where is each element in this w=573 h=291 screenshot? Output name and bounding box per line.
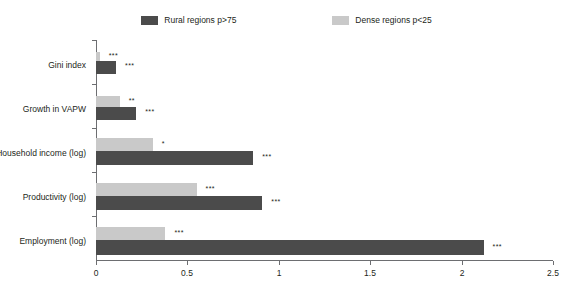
x-tick-label-05: 0.5 — [181, 268, 193, 278]
legend-label-rural: Rural regions p>75 — [164, 15, 236, 25]
legend-label-dense: Dense regions p<25 — [355, 15, 431, 25]
bar-rural-employment[interactable] — [96, 240, 484, 255]
bar-group-productivity: *** *** — [96, 172, 553, 216]
y-tick-gini — [92, 40, 96, 41]
bar-rural-household[interactable] — [96, 151, 253, 165]
bar-dense-employment[interactable] — [96, 227, 165, 240]
bar-group-gini: *** *** — [96, 40, 553, 84]
x-tick-mark-15 — [370, 261, 371, 265]
sig-rural-employment: *** — [493, 243, 502, 250]
x-tick-label-25: 2.5 — [547, 268, 559, 278]
y-axis-label-productivity: Productivity (log) — [23, 192, 86, 202]
bar-chart: Rural regions p>75 Dense regions p<25 Gi… — [0, 0, 573, 291]
x-tick-mark-0 — [96, 261, 97, 265]
bar-dense-productivity[interactable] — [96, 183, 197, 196]
plot-area: *** *** ** *** * *** *** *** — [96, 40, 553, 261]
sig-rural-household: *** — [262, 153, 271, 160]
y-axis-label-gini: Gini index — [48, 60, 86, 70]
x-axis-ticks: 0 0.5 1 1.5 2 2.5 — [96, 261, 553, 287]
legend-item-rural: Rural regions p>75 — [141, 15, 236, 25]
y-axis-label-employment: Employment (log) — [19, 236, 86, 246]
y-axis-labels: Gini index Growth in VAPW Household inco… — [0, 40, 91, 261]
x-tick-label-15: 1.5 — [364, 268, 376, 278]
y-tick-household — [92, 128, 96, 129]
x-tick-mark-1 — [279, 261, 280, 265]
y-axis-label-growth: Growth in VAPW — [23, 104, 86, 114]
sig-rural-growth: *** — [145, 108, 154, 115]
y-tick-growth — [92, 84, 96, 85]
y-axis-label-household: Household income (log) — [0, 148, 86, 158]
sig-dense-household: * — [162, 140, 165, 147]
legend-swatch-rural — [141, 16, 158, 25]
legend-swatch-dense — [332, 16, 349, 25]
sig-dense-productivity: *** — [206, 185, 215, 192]
bar-dense-gini[interactable] — [96, 52, 100, 61]
bar-group-growth: ** *** — [96, 84, 553, 128]
chart-legend: Rural regions p>75 Dense regions p<25 — [0, 10, 573, 30]
sig-dense-growth: ** — [129, 97, 135, 104]
sig-rural-productivity: *** — [271, 198, 280, 205]
y-tick-employment — [92, 216, 96, 217]
x-tick-label-0: 0 — [94, 268, 99, 278]
bar-dense-growth[interactable] — [96, 96, 120, 107]
x-tick-label-2: 2 — [460, 268, 465, 278]
x-tick-label-1: 1 — [277, 268, 282, 278]
sig-dense-gini: *** — [109, 52, 118, 59]
bar-group-household: * *** — [96, 128, 553, 172]
legend-item-dense: Dense regions p<25 — [332, 15, 431, 25]
bar-rural-gini[interactable] — [96, 61, 116, 74]
x-tick-mark-2 — [462, 261, 463, 265]
bar-rural-productivity[interactable] — [96, 196, 262, 210]
bar-group-employment: *** *** — [96, 216, 553, 261]
y-tick-productivity — [92, 172, 96, 173]
sig-rural-gini: *** — [125, 62, 134, 69]
bar-dense-household[interactable] — [96, 138, 153, 151]
x-tick-mark-05 — [187, 261, 188, 265]
x-tick-mark-25 — [553, 261, 554, 265]
bar-rural-growth[interactable] — [96, 107, 136, 120]
sig-dense-employment: *** — [174, 229, 183, 236]
